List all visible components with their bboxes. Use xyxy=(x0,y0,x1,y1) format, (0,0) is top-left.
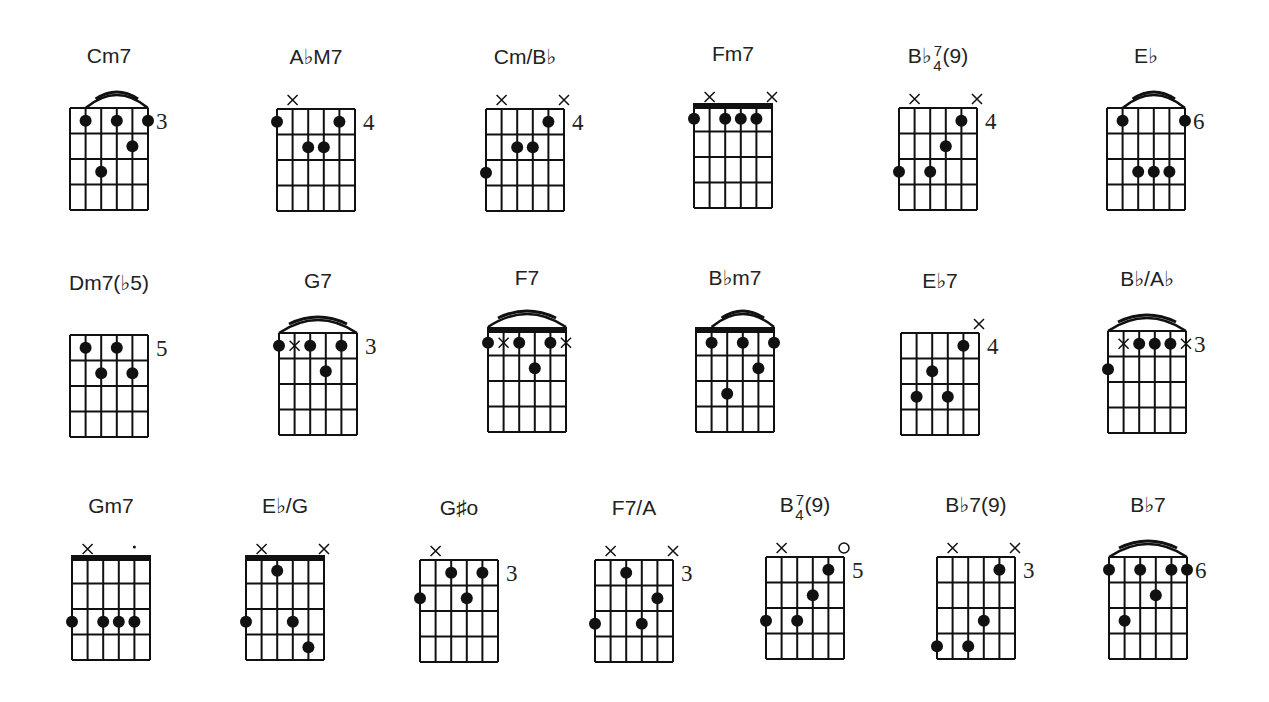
chord-diagram: Dm7(♭5)5 xyxy=(69,271,167,437)
finger-dot xyxy=(719,113,731,125)
finger-dot xyxy=(636,618,648,630)
finger-dot xyxy=(318,141,330,153)
finger-dot xyxy=(529,362,541,374)
chord-name: Cm7 xyxy=(87,44,131,67)
finger-dot xyxy=(95,367,107,379)
chord-name: Fm7 xyxy=(712,42,754,65)
finger-dot xyxy=(80,342,92,354)
finger-dot xyxy=(957,340,969,352)
chord-root: Gm7 xyxy=(88,494,134,517)
chord-name: E♭/G xyxy=(262,494,308,517)
finger-dot xyxy=(589,618,601,630)
nut-bar xyxy=(695,327,775,333)
finger-dot xyxy=(807,589,819,601)
finger-dot xyxy=(527,141,539,153)
chord-root: B♭7 xyxy=(1130,493,1166,516)
finger-dot xyxy=(126,140,138,152)
finger-dot xyxy=(461,592,473,604)
finger-dot xyxy=(651,592,663,604)
chord-name: F7 xyxy=(515,266,540,289)
chord-diagram: B♭m7 xyxy=(695,266,780,432)
finger-dot xyxy=(542,116,554,128)
mute-x-icon xyxy=(1010,543,1020,553)
fret-number: 4 xyxy=(985,109,997,134)
finger-dot xyxy=(1150,589,1162,601)
chord-diagram: Gm7 xyxy=(66,494,151,660)
small-mark xyxy=(133,546,136,549)
barre-arc xyxy=(712,314,774,327)
fret-number: 4 xyxy=(987,334,999,359)
chord-diagram: Fm7 xyxy=(688,42,777,208)
finger-dot xyxy=(1134,564,1146,576)
fret-number: 6 xyxy=(1195,558,1207,583)
finger-dot xyxy=(893,166,905,178)
chord-root: B♭ xyxy=(908,44,932,67)
chord-root: B♭7(9) xyxy=(945,493,1006,516)
mute-x-icon xyxy=(777,543,787,553)
chord-diagram: B♭76 xyxy=(1103,493,1207,659)
chord-root: E♭7 xyxy=(922,269,958,292)
chord-root: B xyxy=(780,493,794,516)
fret-number: 3 xyxy=(1194,332,1206,357)
mute-x-icon xyxy=(972,94,982,104)
finger-dot xyxy=(66,616,78,628)
finger-dot xyxy=(962,640,974,652)
chord-root: Cm/B♭ xyxy=(494,45,556,68)
finger-dot xyxy=(1102,363,1114,375)
mute-x-icon xyxy=(497,95,507,105)
mute-x-icon xyxy=(83,544,93,554)
chord-diagram: Cm/B♭4 xyxy=(480,45,584,211)
chord-root: G7 xyxy=(304,269,332,292)
finger-dot xyxy=(1163,166,1175,178)
chord-root: B♭/A♭ xyxy=(1120,267,1174,290)
chord-root: Dm7(♭5) xyxy=(69,271,149,294)
mute-x-icon xyxy=(948,543,958,553)
chord-name: B♭7 xyxy=(1130,493,1166,516)
finger-dot xyxy=(302,641,314,653)
chord-subscript: 4 xyxy=(933,57,941,74)
finger-dot xyxy=(926,365,938,377)
finger-dot xyxy=(273,340,285,352)
chord-name: B♭/A♭ xyxy=(1120,267,1174,290)
mute-x-icon xyxy=(668,546,678,556)
chord-diagram: E♭/G xyxy=(240,494,329,660)
finger-dot xyxy=(128,616,140,628)
chord-diagram: F7/A3 xyxy=(589,496,693,662)
chord-root: G♯o xyxy=(440,496,479,519)
finger-dot xyxy=(1164,338,1176,350)
chord-name: B♭74(9) xyxy=(908,42,968,74)
finger-dot xyxy=(1165,564,1177,576)
finger-dot xyxy=(113,616,125,628)
finger-dot xyxy=(320,365,332,377)
finger-dot xyxy=(482,337,494,349)
finger-dot xyxy=(240,616,252,628)
chord-name: E♭ xyxy=(1134,44,1158,67)
chord-diagram: B♭/A♭3 xyxy=(1102,267,1206,433)
finger-dot xyxy=(304,340,316,352)
finger-dot xyxy=(721,388,733,400)
finger-dot xyxy=(1103,564,1115,576)
finger-dot xyxy=(688,113,700,125)
chord-root: Cm7 xyxy=(87,44,131,67)
finger-dot xyxy=(735,113,747,125)
finger-dot xyxy=(111,115,123,127)
finger-dot xyxy=(333,116,345,128)
chord-root: E♭ xyxy=(1134,44,1158,67)
mute-x-icon xyxy=(288,95,298,105)
finger-dot xyxy=(1132,166,1144,178)
chord-name: B♭m7 xyxy=(708,266,761,289)
chord-diagram: E♭74 xyxy=(901,269,999,435)
finger-dot xyxy=(1179,115,1191,127)
mute-x-icon xyxy=(606,546,616,556)
mute-x-icon xyxy=(705,92,715,102)
fret-number: 6 xyxy=(1193,109,1205,134)
finger-dot xyxy=(511,141,523,153)
finger-dot xyxy=(911,391,923,403)
mute-x-icon xyxy=(559,95,569,105)
chord-diagram: B74(9)5 xyxy=(760,491,864,659)
finger-dot xyxy=(271,116,283,128)
finger-dot xyxy=(822,564,834,576)
chord-diagram: B♭7(9)3 xyxy=(931,493,1035,659)
finger-dot xyxy=(1181,564,1193,576)
chord-diagram: G♯o3 xyxy=(414,496,518,662)
